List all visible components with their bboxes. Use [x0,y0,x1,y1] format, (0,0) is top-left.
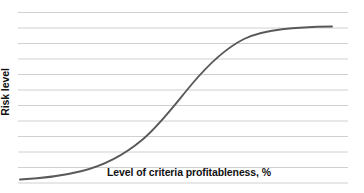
chart-plot-area [0,0,364,193]
gridlines-group [18,13,348,184]
y-axis-label: Risk level [0,62,11,122]
data-series-line [20,27,332,180]
chart-figure: Risk level Level of criteria profitablen… [0,0,364,193]
data-series-group [20,27,332,180]
x-axis-label: Level of criteria profitableness, % [107,166,271,178]
